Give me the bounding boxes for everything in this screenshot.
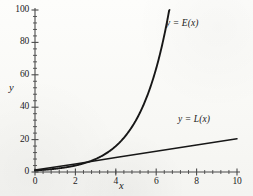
x-tick-label: 8 (187, 176, 207, 186)
x-tick-label: 10 (227, 176, 247, 186)
curve-label-linear: y = L(x) (178, 114, 210, 124)
figure-canvas: 020406080100 0246810 y x y = E(x) y = L(… (0, 0, 253, 196)
curve-exponential-Ex (35, 10, 170, 170)
x-tick-label: 0 (25, 176, 45, 186)
y-axis-label: y (9, 82, 14, 93)
y-tick-label: 60 (20, 69, 29, 79)
plot-area (0, 0, 253, 196)
curve-label-exponential: y = E(x) (166, 18, 199, 28)
y-tick-label: 100 (15, 4, 29, 14)
curve-linear-Lx (35, 139, 237, 170)
curve-label-linear-suffix: (x) (199, 114, 210, 124)
y-tick-label: 80 (20, 36, 29, 46)
y-tick-label: 0 (24, 166, 29, 176)
curve-label-exponential-prefix: y = (166, 18, 182, 28)
x-tick-label: 2 (65, 176, 85, 186)
x-axis-label: x (119, 180, 124, 191)
curve-label-exponential-suffix: (x) (188, 18, 199, 28)
y-tick-label: 20 (20, 134, 29, 144)
x-tick-label: 6 (146, 176, 166, 186)
y-tick-label: 40 (20, 101, 29, 111)
curve-label-linear-prefix: y = (178, 114, 194, 124)
